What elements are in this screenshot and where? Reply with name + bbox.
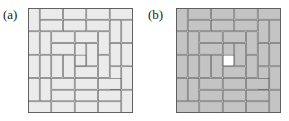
domino-tile <box>75 78 97 89</box>
domino-tile <box>188 20 210 31</box>
domino-tile <box>40 32 51 54</box>
domino-tile <box>63 55 74 77</box>
panel-b: (b) <box>144 0 289 121</box>
domino-tile <box>122 67 133 89</box>
domino-tile <box>52 78 74 89</box>
figure-container: (a) (b) <box>0 0 289 121</box>
domino-tile <box>211 8 233 19</box>
domino-tile <box>28 32 39 54</box>
domino-tile <box>52 90 74 101</box>
domino-tile <box>98 90 120 101</box>
domino-tile <box>176 32 187 54</box>
panel-b-label: (b) <box>148 8 163 21</box>
domino-tile <box>246 55 257 77</box>
domino-tile <box>98 78 120 89</box>
domino-tile <box>200 32 222 43</box>
domino-tile <box>98 32 109 54</box>
domino-tile <box>52 43 74 54</box>
domino-tile <box>122 90 133 112</box>
domino-tile <box>270 20 281 42</box>
domino-tile <box>122 43 133 65</box>
domino-tiling-a-canvas <box>28 8 133 113</box>
domino-tile <box>211 55 222 77</box>
panel-a-label: (a) <box>3 8 17 21</box>
domino-tile <box>176 78 187 100</box>
domino-tile <box>110 43 121 65</box>
domino-tile <box>246 32 257 54</box>
domino-tile <box>223 90 245 101</box>
domino-tile <box>258 43 269 65</box>
domino-tile <box>87 20 109 31</box>
domino-tile <box>40 55 51 77</box>
center-unit-cell <box>223 55 234 66</box>
domino-tile <box>223 102 245 113</box>
domino-tile <box>176 55 187 77</box>
domino-tile <box>110 20 121 42</box>
domino-tile <box>40 78 51 100</box>
domino-tile <box>176 102 198 113</box>
domino-tile <box>52 55 63 77</box>
domino-tile <box>200 90 222 101</box>
domino-tile <box>188 78 199 100</box>
domino-tile <box>40 8 62 19</box>
domino-tile <box>63 8 85 19</box>
domino-tile <box>28 8 39 30</box>
domino-tile <box>258 20 269 42</box>
domino-tile <box>75 102 97 113</box>
domino-tile <box>122 20 133 42</box>
domino-tile <box>98 102 120 113</box>
domino-tiling-a <box>28 8 133 113</box>
domino-tile <box>235 8 257 19</box>
domino-tile <box>200 55 211 77</box>
domino-tile <box>98 55 109 77</box>
domino-tile <box>87 43 98 65</box>
domino-tile <box>200 78 222 89</box>
domino-tile <box>188 55 199 77</box>
domino-tile <box>270 43 281 65</box>
domino-tile <box>223 78 245 89</box>
domino-tile <box>176 8 187 30</box>
domino-tile <box>223 67 245 78</box>
domino-tile <box>28 55 39 77</box>
domino-tile <box>235 43 246 65</box>
domino-tile <box>223 32 245 43</box>
domino-tiling-b <box>176 8 281 113</box>
domino-tile <box>270 67 281 89</box>
domino-tile <box>258 8 280 19</box>
domino-tile <box>246 78 268 89</box>
domino-tile <box>246 90 268 101</box>
domino-tile <box>40 20 62 31</box>
domino-tile <box>63 20 85 31</box>
domino-tile <box>246 102 268 113</box>
domino-tile <box>52 32 74 43</box>
domino-tile <box>188 8 210 19</box>
domino-tile <box>235 20 257 31</box>
domino-tile <box>28 102 50 113</box>
domino-tile <box>87 8 109 19</box>
domino-tile <box>200 43 222 54</box>
domino-tile <box>28 78 39 100</box>
domino-tile <box>75 32 97 43</box>
domino-tile <box>75 90 97 101</box>
domino-tile <box>110 8 132 19</box>
panel-a: (a) <box>0 0 144 121</box>
domino-tile <box>188 32 199 54</box>
domino-tile <box>211 20 233 31</box>
domino-tile <box>75 67 97 78</box>
domino-tiling-b-canvas <box>176 8 281 113</box>
center-unit-cell <box>75 55 86 66</box>
domino-tile <box>270 90 281 112</box>
domino-tile <box>52 102 74 113</box>
domino-tile <box>200 102 222 113</box>
